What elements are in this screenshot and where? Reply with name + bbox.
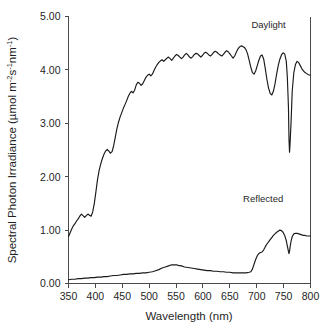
series-line-reflected	[69, 230, 311, 280]
chart-canvas: 0.001.002.003.004.005.00 350400450500550…	[0, 0, 325, 329]
y-axis-title-mid2: nm	[6, 47, 18, 63]
x-tick-label: 400	[87, 290, 105, 302]
x-tick-label: 650	[221, 290, 239, 302]
annotation-label-reflected: Reflected	[243, 193, 283, 204]
y-axis-title-sup1: -2	[5, 76, 14, 83]
y-tick-label: 2.00	[40, 171, 61, 183]
x-tick-label: 600	[194, 290, 212, 302]
annotation-label-daylight: Daylight	[251, 19, 286, 30]
x-tick-label: 450	[114, 290, 132, 302]
tick-marks	[65, 17, 311, 288]
y-tick-label: 3.00	[40, 117, 61, 129]
y-tick-label: 5.00	[40, 10, 61, 22]
x-tick-label: 700	[248, 290, 266, 302]
y-axis-title-tail: )	[6, 36, 18, 40]
x-axis-title: Wavelength (nm)	[145, 310, 232, 322]
y-tick-label: 1.00	[40, 224, 61, 236]
series-annotations: DaylightReflected	[243, 19, 286, 204]
x-tick-label: 750	[275, 290, 293, 302]
y-tick-label: 0.00	[40, 277, 61, 289]
y-tick-label: 4.00	[40, 64, 61, 76]
data-series	[69, 46, 311, 280]
x-tick-label: 500	[140, 290, 158, 302]
spectral-irradiance-chart: 0.001.002.003.004.005.00 350400450500550…	[0, 0, 325, 329]
y-axis-title-main: Spectral Photon Irradiance (µmol m	[6, 82, 18, 263]
y-axis-title-sup3: -1	[5, 40, 14, 47]
y-axis-title: Spectral Photon Irradiance (µmol m-2s-1n…	[5, 36, 19, 263]
x-tick-label: 350	[60, 290, 78, 302]
y-axis-tick-labels: 0.001.002.003.004.005.00	[40, 10, 61, 289]
y-axis-title-sup2: -1	[5, 63, 14, 70]
x-tick-label: 800	[302, 290, 320, 302]
x-tick-label: 550	[167, 290, 185, 302]
series-line-daylight	[69, 46, 311, 237]
x-axis-tick-labels: 350400450500550600650700750800	[60, 290, 320, 302]
